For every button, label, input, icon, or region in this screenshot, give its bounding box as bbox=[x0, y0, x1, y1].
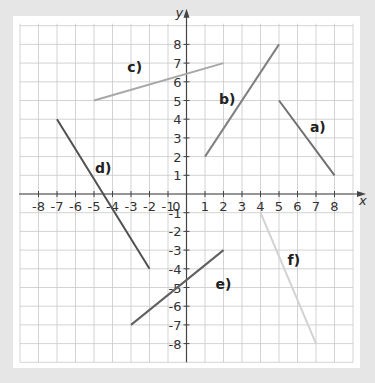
segment-label-a: a) bbox=[310, 119, 326, 135]
x-tick-label: 6 bbox=[293, 199, 301, 214]
y-tick-label: -6 bbox=[169, 299, 182, 314]
x-tick-label: -6 bbox=[69, 199, 82, 214]
x-tick-label: -7 bbox=[51, 199, 64, 214]
x-tick-label: 5 bbox=[275, 199, 283, 214]
y-tick-label: -3 bbox=[169, 243, 182, 258]
x-axis-label: x bbox=[358, 193, 367, 208]
x-tick-label: 3 bbox=[238, 199, 246, 214]
y-tick-label: 4 bbox=[173, 112, 181, 127]
x-tick-label: -3 bbox=[125, 199, 138, 214]
x-tick-label: 2 bbox=[219, 199, 227, 214]
y-tick-label: 7 bbox=[173, 56, 181, 71]
x-tick-label: 8 bbox=[330, 199, 338, 214]
x-tick-label: -2 bbox=[143, 199, 156, 214]
x-tick-label: 4 bbox=[256, 199, 264, 214]
segment-label-d: d) bbox=[95, 160, 111, 176]
y-axis-arrow-icon bbox=[184, 9, 190, 18]
line-segment-f bbox=[261, 213, 317, 344]
y-tick-label: 1 bbox=[173, 168, 181, 183]
y-axis-label: y bbox=[175, 5, 184, 20]
y-tick-label: -1 bbox=[169, 206, 182, 221]
coordinate-grid-chart: xy-8-7-6-5-4-3-2-101234567887654321-1-2-… bbox=[0, 0, 375, 383]
x-tick-label: 7 bbox=[312, 199, 320, 214]
x-tick-label: -5 bbox=[88, 199, 101, 214]
segment-label-b: b) bbox=[219, 91, 235, 107]
y-tick-label: 3 bbox=[173, 131, 181, 146]
y-tick-label: 5 bbox=[173, 94, 181, 109]
segment-label-f: f) bbox=[288, 252, 301, 268]
y-tick-label: -2 bbox=[169, 224, 182, 239]
y-tick-label: -7 bbox=[169, 318, 182, 333]
segment-label-c: c) bbox=[127, 59, 142, 75]
y-tick-label: -8 bbox=[169, 337, 182, 352]
y-tick-label: 2 bbox=[173, 150, 181, 165]
x-tick-label: 1 bbox=[201, 199, 209, 214]
y-tick-label: 8 bbox=[173, 37, 181, 52]
segment-label-e: e) bbox=[216, 276, 232, 292]
x-tick-label: -8 bbox=[32, 199, 45, 214]
y-tick-label: -4 bbox=[169, 262, 182, 277]
